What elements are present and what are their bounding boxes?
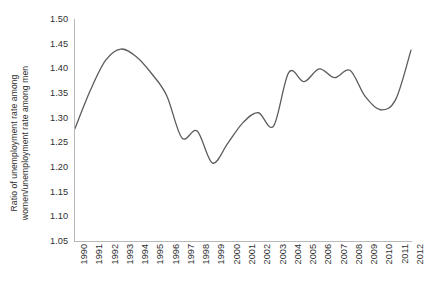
x-tick-label: 2011 [400, 244, 410, 284]
x-tick-label: 2010 [384, 244, 394, 284]
x-tick-label: 2012 [415, 244, 425, 284]
x-tick-label: 1995 [155, 244, 165, 284]
y-tick-label: 1.20 [50, 162, 68, 172]
y-tick-label: 1.25 [50, 137, 68, 147]
y-axis-tick-labels: 1.501.451.401.351.301.251.201.151.101.05 [36, 12, 72, 247]
x-tick-label: 2006 [323, 244, 333, 284]
x-tick-label: 2008 [354, 244, 364, 284]
x-tick-label: 2004 [293, 244, 303, 284]
x-tick-label: 1999 [216, 244, 226, 284]
x-tick-label: 2003 [278, 244, 288, 284]
plot-area [74, 19, 412, 242]
x-tick-label: 1994 [140, 244, 150, 284]
x-tick-label: 2000 [232, 244, 242, 284]
x-tick-label: 1996 [171, 244, 181, 284]
x-tick-label: 2007 [339, 244, 349, 284]
y-tick-label: 1.35 [50, 88, 68, 98]
y-tick-label: 1.30 [50, 113, 68, 123]
x-tick-label: 1990 [79, 244, 89, 284]
y-tick-label: 1.45 [50, 39, 68, 49]
x-tick-label: 1997 [186, 244, 196, 284]
x-tick-label: 1993 [125, 244, 135, 284]
line-chart: Ratio of unemployment rate among women/u… [0, 0, 425, 286]
y-tick-label: 1.10 [50, 211, 68, 221]
series-line-path [75, 49, 411, 163]
x-tick-label: 1991 [94, 244, 104, 284]
series-line-svg [75, 19, 412, 241]
x-tick-label: 2001 [247, 244, 257, 284]
y-tick-label: 1.05 [50, 236, 68, 246]
y-tick-label: 1.40 [50, 63, 68, 73]
y-axis-title-line-1: Ratio of unemployment rate among [9, 66, 20, 220]
x-tick-label: 1992 [110, 244, 120, 284]
x-tick-label: 1998 [201, 244, 211, 284]
y-tick-label: 1.15 [50, 187, 68, 197]
x-axis-tick-labels: 1990199119921993199419951996199719981999… [74, 243, 412, 286]
y-axis-title: Ratio of unemployment rate among women/u… [0, 0, 40, 286]
x-tick-label: 2009 [369, 244, 379, 284]
x-tick-label: 2002 [262, 244, 272, 284]
y-tick-label: 1.50 [50, 14, 68, 24]
x-tick-label: 2005 [308, 244, 318, 284]
y-axis-title-line-2: women/unemployment rate among men [20, 66, 31, 220]
